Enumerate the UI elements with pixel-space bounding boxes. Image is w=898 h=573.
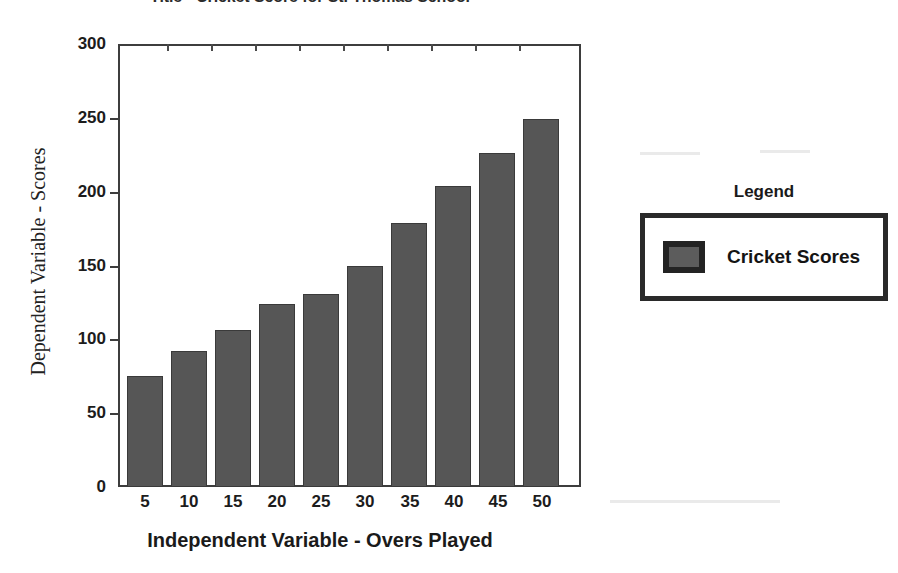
bar-series-cricket-scores bbox=[118, 44, 581, 487]
bar[interactable] bbox=[391, 223, 427, 487]
bar[interactable] bbox=[215, 330, 251, 487]
x-tick-label: 25 bbox=[298, 492, 344, 512]
y-tick-label: 250 bbox=[60, 108, 106, 128]
x-axis-title: Independent Variable - Overs Played bbox=[60, 529, 580, 552]
y-axis-title: Dependent Variable - Scores bbox=[27, 62, 50, 462]
x-tick-label: 5 bbox=[122, 492, 168, 512]
bar[interactable] bbox=[303, 294, 339, 487]
bar[interactable] bbox=[435, 186, 471, 487]
bar[interactable] bbox=[479, 153, 515, 487]
y-tick-label: 300 bbox=[60, 34, 106, 54]
y-tick-label: 150 bbox=[60, 256, 106, 276]
x-tick-label: 10 bbox=[166, 492, 212, 512]
x-tick-label: 50 bbox=[519, 492, 565, 512]
y-tick-label: 200 bbox=[60, 182, 106, 202]
y-axis-tick-labels: 300 250 200 150 100 50 0 bbox=[54, 0, 106, 573]
legend-entry-label: Cricket Scores bbox=[727, 246, 860, 268]
bar[interactable] bbox=[171, 351, 207, 487]
x-tick-label: 30 bbox=[342, 492, 388, 512]
y-tick-label: 100 bbox=[60, 329, 106, 349]
bar[interactable] bbox=[523, 119, 559, 487]
x-tick-label: 35 bbox=[387, 492, 433, 512]
x-tick-label: 45 bbox=[475, 492, 521, 512]
scan-artifact bbox=[640, 152, 700, 155]
bar[interactable] bbox=[347, 266, 383, 488]
scan-artifact bbox=[610, 500, 780, 503]
legend-heading: Legend bbox=[636, 182, 892, 202]
legend-box: Cricket Scores bbox=[640, 213, 888, 301]
x-tick-label: 40 bbox=[431, 492, 477, 512]
x-tick-label: 15 bbox=[210, 492, 256, 512]
scan-artifact bbox=[760, 150, 810, 153]
x-tick-label: 20 bbox=[254, 492, 300, 512]
legend-swatch-icon bbox=[663, 241, 705, 273]
y-tick-label: 0 bbox=[60, 477, 106, 497]
y-tick-label: 50 bbox=[60, 403, 106, 423]
bar[interactable] bbox=[259, 304, 295, 487]
x-axis-tick-labels: 5 10 15 20 25 30 35 40 45 50 bbox=[118, 492, 581, 520]
bar[interactable] bbox=[127, 376, 163, 487]
